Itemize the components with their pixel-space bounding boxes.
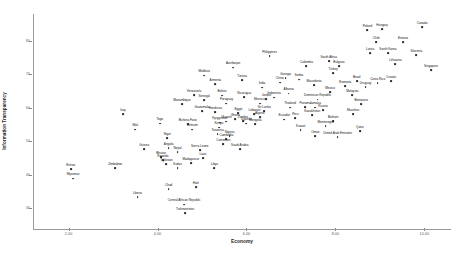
data-point[interactable] — [402, 41, 404, 43]
data-point[interactable] — [263, 110, 265, 112]
data-point[interactable] — [360, 103, 362, 105]
data-point-label: China — [276, 77, 284, 80]
data-point[interactable] — [114, 168, 116, 170]
data-point[interactable] — [162, 160, 164, 162]
data-point-label: Paraguay — [220, 98, 233, 101]
data-point[interactable] — [261, 87, 263, 89]
data-point[interactable] — [241, 79, 243, 81]
data-point[interactable] — [314, 135, 316, 137]
data-point[interactable] — [273, 97, 275, 99]
data-point[interactable] — [415, 55, 417, 57]
data-point[interactable] — [294, 117, 296, 119]
data-point-label: Slovenia — [410, 50, 422, 53]
data-point[interactable] — [201, 110, 203, 112]
data-point[interactable] — [387, 53, 389, 55]
data-point[interactable] — [325, 125, 327, 127]
data-point[interactable] — [246, 123, 248, 125]
data-point[interactable] — [313, 84, 315, 86]
data-point[interactable] — [168, 147, 170, 149]
data-point[interactable] — [191, 129, 193, 131]
data-point-label: Nigeria — [225, 131, 235, 134]
data-point[interactable] — [72, 178, 74, 180]
data-point[interactable] — [381, 28, 383, 30]
data-point[interactable] — [229, 135, 231, 137]
data-point[interactable] — [328, 60, 330, 62]
data-point[interactable] — [283, 119, 285, 121]
data-point[interactable] — [190, 163, 192, 165]
data-point[interactable] — [134, 129, 136, 131]
data-point[interactable] — [168, 188, 170, 190]
data-point[interactable] — [279, 82, 281, 84]
data-point[interactable] — [390, 80, 392, 82]
data-point[interactable] — [298, 79, 300, 81]
data-point[interactable] — [338, 65, 340, 67]
data-point[interactable] — [226, 103, 228, 105]
data-point[interactable] — [288, 93, 290, 95]
data-point[interactable] — [300, 129, 302, 131]
data-point[interactable] — [214, 111, 216, 113]
data-point[interactable] — [311, 114, 313, 116]
data-point[interactable] — [137, 196, 139, 198]
data-point[interactable] — [232, 67, 234, 69]
data-point[interactable] — [306, 65, 308, 67]
data-point[interactable] — [254, 123, 256, 125]
data-point[interactable] — [226, 121, 228, 123]
data-point[interactable] — [166, 137, 168, 139]
y-tick-label: 70 — [26, 72, 30, 76]
data-point[interactable] — [177, 167, 179, 169]
data-point[interactable] — [375, 42, 377, 44]
data-point[interactable] — [184, 212, 186, 214]
data-point[interactable] — [421, 26, 423, 28]
data-point[interactable] — [219, 122, 221, 124]
data-point[interactable] — [269, 55, 271, 57]
data-point[interactable] — [369, 52, 371, 54]
data-point[interactable] — [183, 204, 185, 206]
data-point[interactable] — [234, 118, 236, 120]
data-point[interactable] — [203, 75, 205, 77]
data-point[interactable] — [266, 98, 268, 100]
data-point[interactable] — [222, 144, 224, 146]
data-point[interactable] — [430, 69, 432, 71]
data-point[interactable] — [122, 113, 124, 115]
data-point[interactable] — [377, 82, 379, 84]
data-point[interactable] — [165, 163, 167, 165]
data-point[interactable] — [217, 133, 219, 135]
data-point[interactable] — [242, 120, 244, 122]
data-point-label: Mali — [132, 124, 138, 127]
data-point[interactable] — [203, 99, 205, 101]
data-point[interactable] — [317, 99, 319, 101]
data-point[interactable] — [304, 106, 306, 108]
data-point[interactable] — [243, 96, 245, 98]
data-point[interactable] — [259, 116, 261, 118]
data-point[interactable] — [395, 63, 397, 65]
data-point[interactable] — [359, 130, 361, 132]
data-point[interactable] — [322, 109, 324, 111]
data-point[interactable] — [344, 85, 346, 87]
data-point[interactable] — [202, 157, 204, 159]
data-point[interactable] — [356, 80, 358, 82]
data-point[interactable] — [181, 103, 183, 105]
data-point[interactable] — [239, 149, 241, 151]
data-point[interactable] — [366, 29, 368, 31]
data-point[interactable] — [337, 136, 339, 138]
data-point[interactable] — [332, 72, 334, 74]
x-tick-mark — [246, 228, 247, 231]
data-point[interactable] — [214, 167, 216, 169]
data-point[interactable] — [352, 113, 354, 115]
data-point[interactable] — [365, 86, 367, 88]
data-point[interactable] — [289, 107, 291, 109]
data-point[interactable] — [70, 169, 72, 171]
data-point[interactable] — [221, 95, 223, 97]
data-point[interactable] — [159, 123, 161, 125]
data-point[interactable] — [199, 149, 201, 151]
data-point-label: Saudi Arabia — [231, 144, 248, 147]
data-point[interactable] — [214, 83, 216, 85]
data-point[interactable] — [193, 94, 195, 96]
data-point[interactable] — [285, 77, 287, 79]
data-point[interactable] — [259, 103, 261, 105]
data-point[interactable] — [195, 186, 197, 188]
data-point[interactable] — [143, 148, 145, 150]
data-point[interactable] — [351, 94, 353, 96]
data-point[interactable] — [177, 152, 179, 154]
x-axis-title: Economy — [231, 239, 253, 244]
